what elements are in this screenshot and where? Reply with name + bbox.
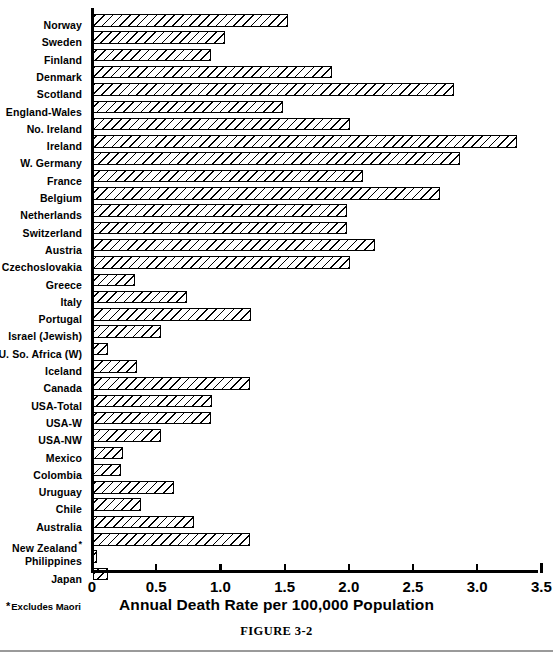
- category-label: Uruguay: [39, 484, 82, 501]
- category-label: Greece: [46, 277, 82, 294]
- bar: [93, 256, 350, 269]
- bar: [93, 447, 123, 460]
- x-axis-tick: [540, 563, 542, 573]
- category-label-text: Switzerland: [23, 227, 82, 239]
- category-label: France: [47, 173, 82, 190]
- category-label: Ireland: [47, 138, 82, 155]
- figure-caption: FIGURE 3-2: [0, 624, 553, 639]
- bar: [93, 31, 225, 44]
- x-axis-tick: [412, 564, 414, 573]
- category-label: Switzerland: [23, 225, 82, 242]
- bar: [93, 377, 250, 390]
- category-label: New Zealand*: [12, 536, 82, 553]
- category-label-text: Canada: [43, 382, 82, 394]
- category-label: Canada: [43, 380, 82, 397]
- bar: [93, 360, 137, 373]
- bar: [93, 325, 161, 338]
- category-label: Australia: [36, 519, 82, 536]
- bar: [93, 14, 288, 27]
- bar: [93, 49, 211, 62]
- bar: [93, 464, 121, 477]
- bar: [93, 66, 332, 79]
- category-label: USA-W: [46, 415, 82, 432]
- category-label-text: Portugal: [39, 313, 82, 325]
- plot-area: [91, 8, 543, 570]
- category-label: Mexico: [46, 450, 82, 467]
- bar: [93, 343, 108, 356]
- bar: [93, 118, 350, 131]
- x-axis-tick-label: 0: [88, 578, 96, 595]
- category-label-text: Scotland: [37, 88, 82, 100]
- category-label-text: U. So. Africa (W): [0, 348, 82, 360]
- category-label: Chile: [56, 501, 82, 518]
- category-label: USA-NW: [38, 432, 82, 449]
- category-label: Norway: [43, 17, 82, 34]
- category-label-text: Belgium: [40, 192, 82, 204]
- category-label-text: Japan: [51, 573, 82, 585]
- category-label-text: Netherlands: [20, 209, 82, 221]
- category-label: USA-Total: [31, 398, 82, 415]
- x-axis-tick-label: 1.0: [210, 578, 231, 595]
- category-label: Colombia: [33, 467, 82, 484]
- category-label-text: Austria: [45, 244, 82, 256]
- footnote-marker-icon: *: [78, 539, 82, 549]
- x-axis-tick-label: 1.5: [274, 578, 295, 595]
- bar: [93, 170, 363, 183]
- x-axis-tick-label: 2.5: [403, 578, 424, 595]
- category-label: Italy: [60, 294, 82, 311]
- x-axis-tick: [219, 564, 221, 573]
- category-label: Portugal: [39, 311, 82, 328]
- category-label-text: Greece: [46, 279, 82, 291]
- category-label-text: New Zealand: [12, 542, 77, 554]
- category-label: Japan: [51, 571, 82, 588]
- category-label: England-Wales: [6, 104, 82, 121]
- category-label-text: Iceland: [45, 365, 82, 377]
- category-label-text: Australia: [36, 521, 82, 533]
- category-label-text: Philippines: [25, 555, 82, 567]
- category-label-text: Finland: [44, 54, 82, 66]
- footnote-text: Excludes Maori: [11, 601, 81, 612]
- category-label: No. Ireland: [27, 121, 82, 138]
- category-label-text: USA-NW: [38, 434, 82, 446]
- category-label: W. Germany: [20, 155, 82, 172]
- category-label: U. So. Africa (W): [0, 346, 82, 363]
- category-label-text: Italy: [60, 296, 82, 308]
- category-label-text: W. Germany: [20, 157, 82, 169]
- bar: [93, 498, 141, 511]
- footnote-asterisk: *: [6, 600, 10, 612]
- category-label-text: Chile: [56, 503, 82, 515]
- category-label-text: No. Ireland: [27, 123, 82, 135]
- x-axis-tick: [284, 564, 286, 573]
- category-label-text: France: [47, 175, 82, 187]
- category-label-text: Norway: [43, 19, 82, 31]
- bar: [93, 152, 460, 165]
- category-label-text: Ireland: [47, 140, 82, 152]
- category-label-text: Israel (Jewish): [8, 330, 82, 342]
- x-axis-tick-label: 2.0: [338, 578, 359, 595]
- category-label-text: England-Wales: [6, 106, 82, 118]
- bar: [93, 222, 347, 235]
- figure-3-2: NorwaySwedenFinlandDenmarkScotlandEnglan…: [0, 0, 553, 658]
- bar: [93, 481, 174, 494]
- category-label-text: Colombia: [33, 469, 82, 481]
- bar: [93, 550, 97, 563]
- category-label-text: Denmark: [36, 71, 82, 83]
- category-label-text: Czechoslovakia: [2, 261, 82, 273]
- bar: [93, 412, 211, 425]
- bar: [93, 429, 161, 442]
- page-bottom-rule: [0, 650, 553, 652]
- x-axis-tick-label: 3.0: [467, 578, 488, 595]
- category-label: Czechoslovakia: [2, 259, 82, 276]
- x-axis-title: Annual Death Rate per 100,000 Population: [0, 596, 553, 614]
- x-axis-tick: [348, 564, 350, 573]
- bar: [93, 135, 517, 148]
- footnote: *Excludes Maori: [6, 600, 81, 612]
- bar: [93, 101, 283, 114]
- category-label: Austria: [45, 242, 82, 259]
- category-label: Sweden: [42, 34, 82, 51]
- category-label: Denmark: [36, 69, 82, 86]
- bar: [93, 395, 212, 408]
- category-label-text: Mexico: [46, 452, 82, 464]
- category-label: Philippines: [25, 553, 82, 570]
- x-axis-tick: [155, 564, 157, 573]
